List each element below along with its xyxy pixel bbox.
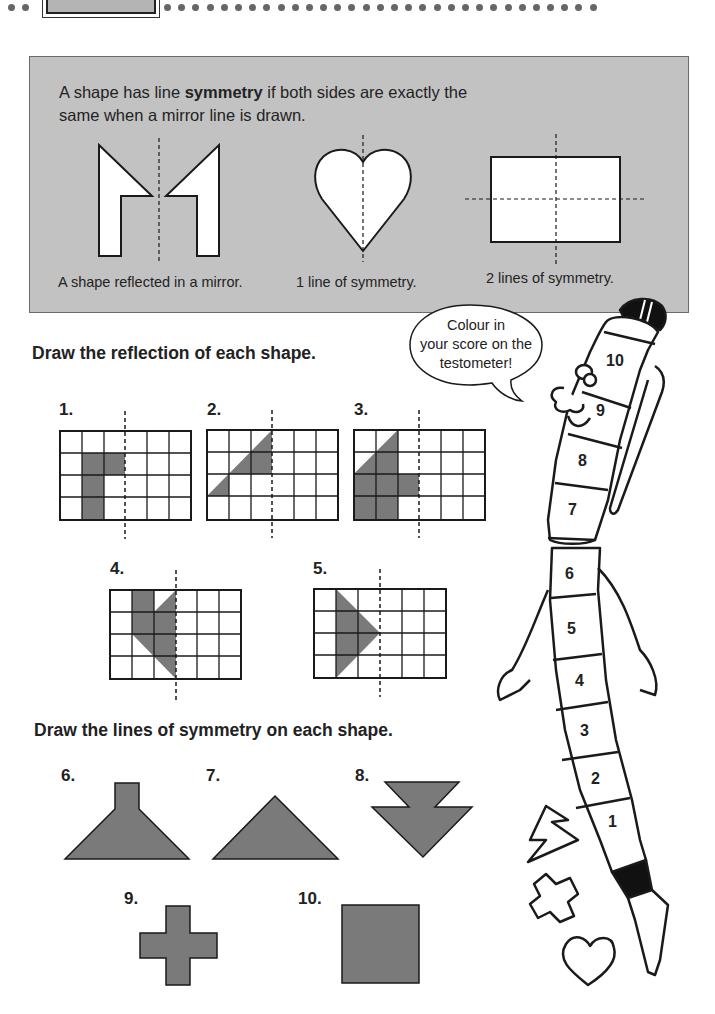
- score-segment-9[interactable]: 9: [596, 402, 605, 420]
- question-5-number: 5.: [313, 559, 327, 579]
- grid-q3: [354, 410, 485, 538]
- question-6-number: 6.: [61, 766, 75, 786]
- shape-q6: [65, 783, 189, 859]
- grid-q2: [207, 410, 338, 538]
- figures-canvas: [0, 0, 715, 1014]
- grid-q1: [60, 411, 191, 539]
- score-segment-8[interactable]: 8: [578, 452, 587, 470]
- score-segment-5[interactable]: 5: [567, 620, 576, 638]
- question-9-number: 9.: [124, 889, 138, 909]
- score-segment-2[interactable]: 2: [591, 770, 600, 788]
- shape-q7: [213, 796, 338, 859]
- section-heading-reflection: Draw the reflection of each shape.: [32, 343, 316, 364]
- question-10-number: 10.: [298, 889, 322, 909]
- question-2-number: 2.: [207, 400, 221, 420]
- score-segment-10[interactable]: 10: [606, 352, 624, 370]
- question-4-number: 4.: [110, 559, 124, 579]
- score-segment-4[interactable]: 4: [575, 672, 584, 690]
- shape-q10: [342, 905, 419, 983]
- reflected-shape-example: [99, 138, 219, 262]
- question-8-number: 8.: [355, 766, 369, 786]
- question-7-number: 7.: [206, 766, 220, 786]
- score-segment-7[interactable]: 7: [568, 501, 577, 519]
- section-heading-symmetry-lines: Draw the lines of symmetry on each shape…: [34, 720, 393, 741]
- grid-q4: [110, 570, 241, 700]
- score-segment-3[interactable]: 3: [580, 722, 589, 740]
- score-segment-1[interactable]: 1: [608, 813, 617, 831]
- shape-q9: [140, 906, 217, 985]
- shape-q8: [372, 782, 472, 857]
- score-segment-6[interactable]: 6: [565, 565, 574, 583]
- grid-q5: [314, 569, 446, 697]
- rectangle-example: [465, 134, 645, 266]
- speech-bubble-text: Colour in your score on the testometer!: [408, 316, 544, 373]
- question-1-number: 1.: [59, 400, 73, 420]
- question-3-number: 3.: [354, 400, 368, 420]
- heart-example: [315, 135, 411, 262]
